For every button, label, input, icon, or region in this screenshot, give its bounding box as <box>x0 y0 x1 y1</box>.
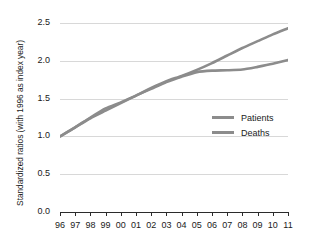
x-axis-tick-mark <box>182 212 183 216</box>
legend-item-deaths: Deaths <box>212 125 274 140</box>
x-axis-tick-mark <box>166 212 167 216</box>
x-axis-tick-mark <box>258 212 259 216</box>
x-axis-tick-mark <box>151 212 152 216</box>
x-axis-tick-mark <box>227 212 228 216</box>
x-axis-tick-mark <box>75 212 76 216</box>
legend-line-swatch-patients <box>212 116 234 119</box>
x-axis-tick-mark <box>197 212 198 216</box>
x-axis-tick-mark <box>212 212 213 216</box>
y-axis-tick-label: 1.5 <box>24 94 50 103</box>
x-axis-tick-mark <box>288 212 289 216</box>
chart-legend: Patients Deaths <box>212 110 274 140</box>
x-axis-tick-label: 11 <box>278 220 298 230</box>
x-axis-tick-mark <box>121 212 122 216</box>
legend-label-deaths: Deaths <box>241 128 270 138</box>
x-axis-tick-mark <box>106 212 107 216</box>
x-axis-line <box>60 212 288 213</box>
legend-label-patients: Patients <box>241 113 274 123</box>
legend-line-swatch-deaths <box>212 131 234 134</box>
y-axis-tick-label: 1.0 <box>24 131 50 140</box>
y-axis-tick-label: 0.5 <box>24 169 50 178</box>
y-axis-tick-label: 0.0 <box>24 207 50 216</box>
x-axis-tick-mark <box>273 212 274 216</box>
legend-item-patients: Patients <box>212 110 274 125</box>
x-axis-tick-mark <box>90 212 91 216</box>
x-axis-tick-mark <box>136 212 137 216</box>
x-axis-tick-mark <box>60 212 61 216</box>
x-axis-tick-mark <box>242 212 243 216</box>
y-axis-tick-label: 2.5 <box>24 18 50 27</box>
y-axis-tick-label: 2.0 <box>24 56 50 65</box>
chart-figure: Standardized ratios (with 1996 as index … <box>0 0 311 249</box>
y-axis-tick-labels: 0.00.51.01.52.02.5 <box>22 0 50 249</box>
